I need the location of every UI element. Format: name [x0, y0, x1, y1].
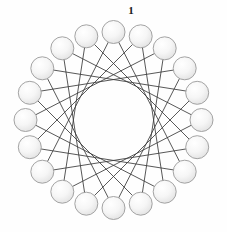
graph-node[interactable]: [129, 192, 152, 215]
graph-node[interactable]: [31, 57, 54, 80]
graph-node[interactable]: [186, 81, 209, 104]
graph-canvas: [0, 0, 227, 232]
node-label-1: 1: [128, 5, 134, 16]
graph-edge: [30, 36, 141, 147]
graph-node[interactable]: [186, 136, 209, 159]
graph-node[interactable]: [18, 81, 41, 104]
circular-graph-figure: 1: [0, 0, 227, 232]
graph-node[interactable]: [51, 37, 74, 60]
graph-node[interactable]: [75, 192, 98, 215]
graph-node[interactable]: [102, 197, 125, 220]
graph-node[interactable]: [153, 180, 176, 203]
graph-nodes-layer: [14, 21, 213, 220]
graph-node[interactable]: [102, 21, 125, 44]
graph-node[interactable]: [173, 57, 196, 80]
graph-edges-layer: [26, 32, 202, 208]
graph-node[interactable]: [18, 136, 41, 159]
graph-node[interactable]: [51, 180, 74, 203]
graph-edge: [86, 36, 197, 147]
graph-node[interactable]: [31, 160, 54, 183]
graph-node[interactable]: [190, 109, 213, 132]
graph-node[interactable]: [14, 109, 37, 132]
graph-node[interactable]: [173, 160, 196, 183]
graph-node[interactable]: [129, 25, 152, 48]
graph-node[interactable]: [75, 25, 98, 48]
graph-node[interactable]: [153, 37, 176, 60]
